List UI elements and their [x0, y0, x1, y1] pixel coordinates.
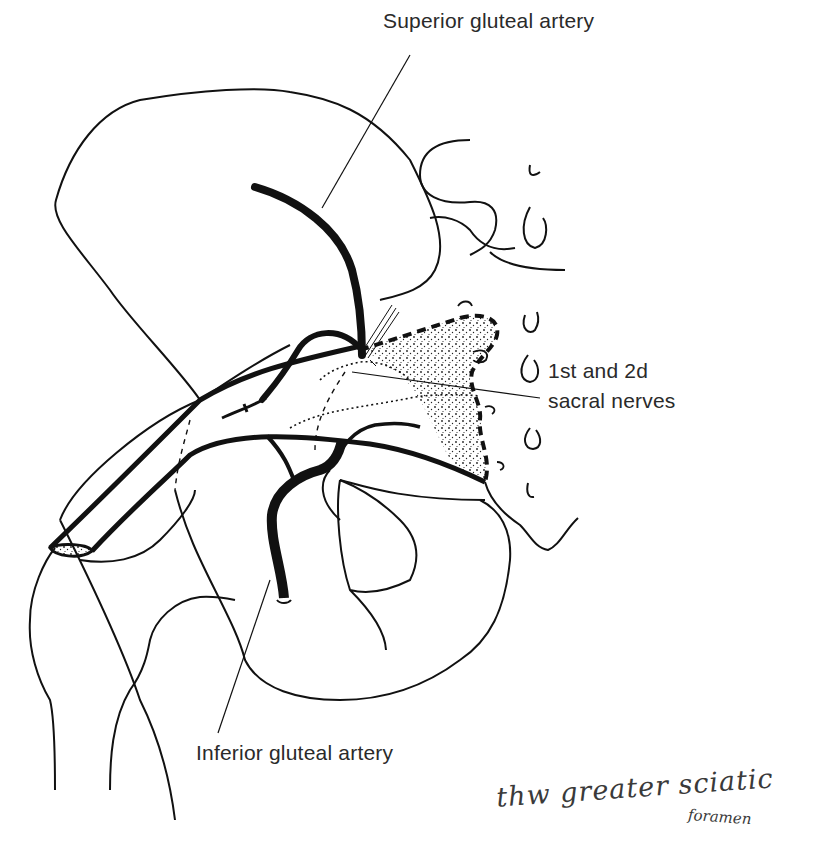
- leader-inferior-gluteal: [218, 580, 270, 733]
- anatomy-figure: [0, 0, 823, 857]
- leader-superior-gluteal: [322, 55, 410, 208]
- sacral-foramen-1: [529, 165, 540, 175]
- ilium-outline: [55, 89, 440, 820]
- ischium-outline: [175, 490, 510, 700]
- piriformis-lower-edge: [92, 437, 485, 551]
- label-sacral-nerves: 1st and 2d sacral nerves: [548, 356, 675, 416]
- label-sacral-nerves-line2: sacral nerves: [548, 386, 675, 416]
- inferior-gluteal-artery: [272, 440, 342, 598]
- sacral-foramen-5: [525, 428, 540, 449]
- acetabular-line: [323, 470, 485, 520]
- superior-gluteal-artery-twig: [222, 398, 266, 418]
- inferior-gluteal-artery-end: [277, 600, 291, 603]
- sacrum-upper-outline: [420, 140, 565, 270]
- obturator-foramen: [338, 480, 417, 650]
- sacral-foramen-3: [524, 312, 539, 332]
- label-inferior-gluteal-artery: Inferior gluteal artery: [196, 740, 393, 765]
- inferior-gluteal-artery-branch-1: [267, 436, 295, 483]
- sacral-foramen-4: [521, 355, 538, 382]
- notch-3: [497, 462, 504, 470]
- label-superior-gluteal-artery: Superior gluteal artery: [383, 8, 594, 33]
- trochanter-attachment: [50, 544, 92, 556]
- notch-4: [458, 302, 472, 307]
- sacral-foramen-6: [527, 483, 534, 497]
- superior-gluteal-artery: [255, 187, 362, 355]
- anatomy-drawing: [0, 0, 823, 857]
- notch-2: [485, 406, 494, 414]
- sacral-foramen-2: [524, 207, 546, 248]
- label-sacral-nerves-line1: 1st and 2d: [548, 356, 675, 386]
